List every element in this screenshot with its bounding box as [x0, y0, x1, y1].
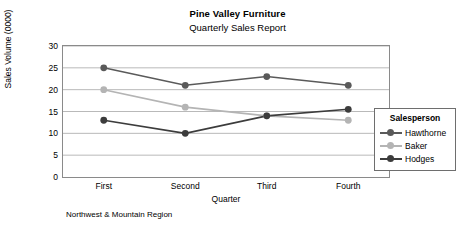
x-tick-label: Fourth [336, 181, 361, 191]
data-point-hodges [263, 112, 270, 119]
legend-item-hawthorne[interactable]: Hawthorne [380, 126, 450, 139]
chart-title: Pine Valley Furniture [0, 8, 475, 20]
plot-svg [63, 46, 389, 177]
chart-footnote: Northwest & Mountain Region [66, 210, 172, 219]
legend-item-baker[interactable]: Baker [380, 139, 450, 152]
data-point-hawthorne [345, 82, 352, 89]
series-line-baker [104, 90, 349, 121]
y-tick-label: 15 [49, 107, 58, 117]
x-tick-label: Second [171, 181, 200, 191]
x-axis-tick-labels: FirstSecondThirdFourth [62, 181, 390, 195]
legend-item-label: Hawthorne [405, 128, 446, 138]
data-point-hawthorne [263, 73, 270, 80]
legend-item-label: Hodges [405, 154, 434, 164]
data-point-hodges [182, 130, 189, 137]
chart-title-block: Pine Valley Furniture Quarterly Sales Re… [0, 8, 475, 34]
plot-area [62, 45, 390, 178]
legend-title: Salesperson [380, 113, 450, 123]
data-point-baker [182, 104, 189, 111]
legend: Salesperson HawthorneBakerHodges [374, 108, 456, 171]
legend-item-label: Baker [405, 141, 427, 151]
chart-subtitle: Quarterly Sales Report [0, 22, 475, 34]
y-tick-label: 30 [49, 41, 58, 51]
y-tick-label: 25 [49, 63, 58, 73]
legend-items: HawthorneBakerHodges [380, 126, 450, 165]
data-point-hawthorne [182, 82, 189, 89]
data-point-baker [345, 117, 352, 124]
series-line-hodges [104, 109, 349, 133]
data-point-hodges [100, 117, 107, 124]
legend-marker-icon [380, 127, 402, 138]
legend-item-hodges[interactable]: Hodges [380, 152, 450, 165]
x-tick-label: Third [257, 181, 276, 191]
x-tick-label: First [95, 181, 112, 191]
legend-marker-icon [380, 153, 402, 164]
chart-container: Pine Valley Furniture Quarterly Sales Re… [0, 0, 475, 236]
y-tick-label: 20 [49, 85, 58, 95]
y-axis-title: Sales Volume (0000) [3, 0, 13, 119]
y-tick-label: 10 [49, 128, 58, 138]
y-axis-tick-labels: 051015202530 [28, 45, 58, 178]
series-line-hawthorne [104, 68, 349, 85]
data-point-hodges [345, 106, 352, 113]
data-point-hawthorne [100, 64, 107, 71]
data-point-baker [100, 86, 107, 93]
legend-marker-icon [380, 140, 402, 151]
y-tick-label: 0 [53, 172, 58, 182]
y-tick-label: 5 [53, 150, 58, 160]
x-axis-title: Quarter [62, 194, 390, 204]
